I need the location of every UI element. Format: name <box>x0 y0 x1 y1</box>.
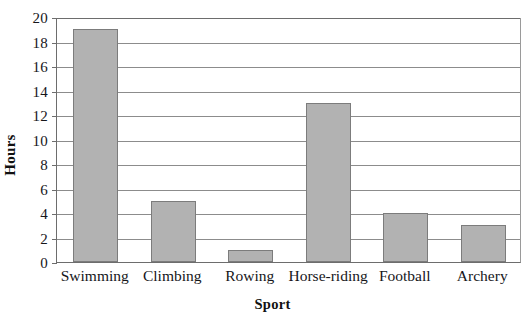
bar-football[interactable] <box>383 213 428 262</box>
y-axis-tick-12 <box>52 116 57 117</box>
gridline-12 <box>57 116 520 117</box>
y-axis-tick-10 <box>52 141 57 142</box>
bar-chart: Hours 02468101214161820 Sport SwimmingCl… <box>0 0 529 317</box>
x-axis-category-label-climbing: Climbing <box>134 268 212 284</box>
gridline-2 <box>57 239 520 240</box>
y-axis-tick-label-4: 4 <box>40 207 48 222</box>
y-axis-tick-18 <box>52 43 57 44</box>
gridline-14 <box>57 92 520 93</box>
y-axis-tick-label-8: 8 <box>40 158 48 173</box>
x-axis-category-label-archery: Archery <box>444 268 522 284</box>
y-axis-tick-label-2: 2 <box>40 231 48 246</box>
y-axis-tick-20 <box>52 18 57 19</box>
y-axis-tick-16 <box>52 67 57 68</box>
x-axis-title: Sport <box>0 296 529 313</box>
y-axis-tick-label-16: 16 <box>33 60 48 75</box>
y-axis-title: Hours <box>2 134 19 176</box>
gridline-4 <box>57 214 520 215</box>
bar-swimming[interactable] <box>73 29 118 262</box>
x-axis-category-label-rowing: Rowing <box>211 268 289 284</box>
bar-horse-riding[interactable] <box>306 103 351 262</box>
gridline-8 <box>57 165 520 166</box>
gridline-16 <box>57 67 520 68</box>
y-axis-tick-2 <box>52 239 57 240</box>
gridline-20 <box>57 18 520 19</box>
y-axis-tick-0 <box>52 263 57 264</box>
y-axis-tick-6 <box>52 190 57 191</box>
y-axis-tick-label-0: 0 <box>40 256 48 271</box>
y-axis-tick-label-10: 10 <box>33 133 48 148</box>
gridline-18 <box>57 43 520 44</box>
x-axis-category-label-horse-riding: Horse-riding <box>289 268 367 284</box>
y-axis-tick-14 <box>52 92 57 93</box>
x-axis-category-label-football: Football <box>366 268 444 284</box>
y-axis-tick-label-12: 12 <box>33 109 48 124</box>
gridline-6 <box>57 190 520 191</box>
y-axis-tick-label-14: 14 <box>33 84 48 99</box>
x-axis-category-label-swimming: Swimming <box>56 268 134 284</box>
y-axis-tick-4 <box>52 214 57 215</box>
plot-area: 02468101214161820 <box>56 18 521 263</box>
y-axis-tick-label-20: 20 <box>33 11 48 26</box>
y-axis-tick-label-18: 18 <box>33 35 48 50</box>
bar-climbing[interactable] <box>151 201 196 262</box>
bar-rowing[interactable] <box>228 250 273 262</box>
x-axis-title-text: Sport <box>254 296 290 312</box>
gridline-10 <box>57 141 520 142</box>
y-axis-tick-label-6: 6 <box>40 182 48 197</box>
bar-archery[interactable] <box>461 225 506 262</box>
y-axis-tick-8 <box>52 165 57 166</box>
